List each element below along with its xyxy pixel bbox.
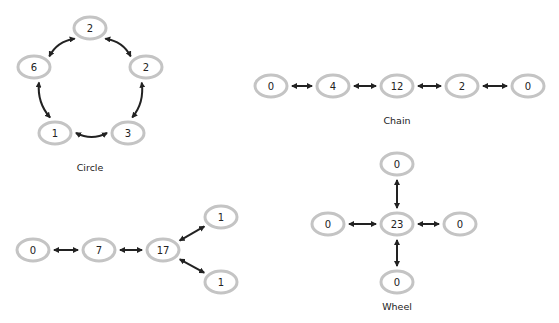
bidirectional-edge: [180, 226, 205, 240]
graph-node: 7: [83, 239, 115, 261]
graph-node: 2: [130, 56, 162, 78]
chain-caption: Chain: [383, 115, 410, 126]
node-label: 7: [96, 245, 102, 256]
node-label: 6: [31, 62, 37, 73]
node-label: 2: [459, 81, 465, 92]
graph-node: 3: [112, 122, 144, 144]
node-label: 1: [218, 212, 224, 223]
graph-node: 4: [317, 75, 349, 97]
graph-node: 1: [205, 206, 237, 228]
graph-node: 12: [381, 75, 413, 97]
wheel-caption: Wheel: [382, 301, 412, 312]
graph-node: 0: [381, 271, 413, 293]
circle-caption: Circle: [77, 162, 104, 173]
graph-node: 2: [446, 75, 478, 97]
node-label: 0: [457, 219, 463, 230]
graph-node: 2: [74, 17, 106, 39]
graph-node: 1: [205, 271, 237, 293]
node-label: 0: [525, 81, 531, 92]
graph-node: 0: [312, 213, 344, 235]
graph-node: 0: [255, 75, 287, 97]
graph-node: 0: [444, 213, 476, 235]
node-label: 0: [394, 159, 400, 170]
bidirectional-edge: [49, 39, 74, 57]
graph-node: 0: [17, 239, 49, 261]
graph-node: 6: [18, 56, 50, 78]
node-label: 23: [391, 219, 404, 230]
graph-node: 0: [512, 75, 544, 97]
node-label: 3: [125, 128, 131, 139]
network-diagrams: 22316041220071711230000 CircleChainWheel: [0, 0, 559, 323]
bidirectional-edge: [132, 83, 142, 118]
bidirectional-edge: [39, 83, 50, 118]
bidirectional-edge: [105, 39, 130, 57]
node-label: 12: [391, 81, 404, 92]
node-label: 0: [394, 277, 400, 288]
node-label: 2: [143, 62, 149, 73]
graph-node: 17: [147, 239, 179, 261]
node-label: 4: [330, 81, 336, 92]
node-label: 0: [268, 81, 274, 92]
node-label: 0: [325, 219, 331, 230]
nodes-layer: 22316041220071711230000: [17, 17, 544, 293]
node-label: 17: [157, 245, 170, 256]
graph-node: 1: [39, 122, 71, 144]
node-label: 1: [52, 128, 58, 139]
bidirectional-edge: [180, 259, 204, 272]
node-label: 1: [218, 277, 224, 288]
graph-node: 23: [381, 213, 413, 235]
bidirectional-edge: [76, 133, 107, 137]
node-label: 2: [87, 23, 93, 34]
graph-node: 0: [381, 153, 413, 175]
node-label: 0: [30, 245, 36, 256]
